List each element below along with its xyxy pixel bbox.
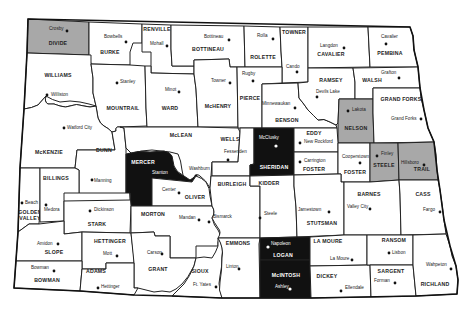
county-dickey[interactable]: DICKEY Ellendale	[310, 265, 371, 298]
county-seat-label: Lisbon	[392, 250, 406, 255]
county-seat-label: Crosby	[49, 26, 64, 31]
county-seat-dot	[398, 77, 401, 80]
county-seat-dot	[420, 118, 423, 121]
county-adams[interactable]: ADAMS Hettinger	[80, 263, 138, 295]
county-ransom[interactable]: RANSOM Lisbon	[367, 235, 413, 265]
county-label: STUTSMAN	[307, 220, 337, 226]
county-seat-label: Cooperstown	[342, 154, 370, 159]
county-label: RAMSEY	[319, 77, 343, 83]
county-williams[interactable]: WILLIAMS Williston	[24, 53, 96, 109]
county-seat-label: Bismarck	[213, 214, 233, 219]
county-seat-label: Minot	[165, 87, 177, 92]
county-seat-label: Watford City	[67, 125, 93, 130]
county-seat-dot	[376, 155, 379, 158]
county-ward[interactable]: WARD Minot	[145, 66, 198, 127]
county-seat-dot	[347, 110, 350, 113]
county-logan[interactable]: LOGAN Napoleon	[260, 237, 310, 260]
county-seat-label: Minnewaukan	[262, 101, 291, 106]
county-traill[interactable]: TRAIL Hillsboro	[398, 142, 438, 180]
county-seat-dot	[385, 43, 388, 46]
county-seat-label: Devils Lake	[316, 89, 340, 94]
county-label: GRAND FORKS	[381, 96, 422, 102]
county-golden-valley[interactable]: GOLDEN VALLEY Beach	[18, 168, 42, 232]
county-bowman[interactable]: BOWMAN Bowman	[14, 261, 82, 291]
county-seat-label: Wahpeton	[426, 262, 447, 267]
county-seat-label: Bowman	[31, 265, 49, 270]
county-label: GRANT	[148, 266, 168, 272]
county-label: BILLINGS	[43, 175, 69, 181]
county-label: BOWMAN	[34, 277, 60, 283]
county-seat-dot	[227, 159, 230, 162]
county-seat-label: Amidon	[37, 241, 53, 246]
county-emmons[interactable]: EMMONS Linton	[218, 238, 260, 298]
county-seat-dot	[423, 164, 426, 167]
county-seat-label: Mohall	[150, 41, 164, 46]
county-label: STEELE	[373, 162, 395, 168]
county-seat-dot	[274, 144, 277, 147]
county-seat-dot	[316, 96, 319, 99]
county-burke[interactable]: BURKE Bowbells	[89, 22, 142, 65]
county-seat-label: Cando	[286, 64, 300, 69]
county-towner[interactable]: TOWNER Cando	[280, 27, 308, 83]
county-seat-dot	[21, 202, 24, 205]
county-label: HETTINGER	[94, 238, 126, 244]
county-stark[interactable]: STARK Dickinson	[64, 193, 131, 234]
county-cavalier[interactable]: CAVALIER Langdon	[308, 27, 370, 68]
county-seat-label: Ashley	[275, 284, 289, 289]
county-seat-label: Forman	[374, 278, 390, 283]
county-seat-label: Rugby	[242, 71, 256, 76]
county-eddy[interactable]: EDDY New Rockford	[294, 128, 338, 152]
county-label: MORTON	[141, 211, 165, 217]
county-rolette[interactable]: ROLETTE Rolla	[244, 26, 282, 67]
county-seat-label: Steele	[264, 211, 277, 216]
county-label: ADAMS	[86, 268, 106, 274]
county-steele[interactable]: STEELE Finley	[370, 143, 399, 182]
county-pembina[interactable]: PEMBINA Cavalier	[368, 27, 418, 67]
county-label: SARGENT	[378, 268, 405, 274]
county-seat-dot	[208, 221, 211, 224]
county-seat-dot	[198, 219, 201, 222]
county-label: SHERIDAN	[260, 164, 289, 170]
county-sheridan[interactable]: SHERIDAN McClusky	[250, 128, 294, 176]
county-seat-dot	[63, 127, 66, 130]
county-label: BURLEIGH	[218, 181, 247, 187]
county-oliver[interactable]: OLIVER Center	[152, 176, 212, 206]
county-label: TRAIL	[414, 166, 431, 172]
county-label: LOGAN	[273, 252, 293, 258]
county-seat-dot	[116, 255, 119, 258]
county-mcintosh[interactable]: McINTOSH Ashley	[260, 260, 311, 298]
county-label: RANSOM	[382, 237, 406, 243]
county-nelson[interactable]: NELSON Lakota	[338, 99, 374, 143]
county-mchenry[interactable]: McHENRY Towner	[194, 59, 238, 127]
county-sargent[interactable]: SARGENT Forman	[370, 265, 416, 297]
county-seat-dot	[228, 39, 231, 42]
county-label: SLOPE	[45, 249, 64, 255]
county-seat-dot	[259, 217, 262, 220]
county-label: TOWNER	[282, 29, 306, 35]
county-seat-label: New Rockford	[304, 139, 333, 144]
county-label: KIDDER	[258, 180, 279, 186]
county-label: NELSON	[345, 125, 368, 131]
county-seat-label: Napoleon	[271, 241, 291, 246]
county-seat-dot	[272, 38, 275, 41]
county-label: BOTTINEAU	[192, 46, 224, 52]
county-seat-dot	[351, 259, 354, 262]
county-seat-label: Grafton	[381, 70, 397, 75]
county-seat-dot	[359, 162, 362, 165]
county-seat-dot	[45, 204, 48, 207]
county-label: OLIVER	[185, 194, 206, 200]
county-barnes[interactable]: BARNES Valley City	[344, 180, 401, 235]
county-seat-dot	[294, 107, 297, 110]
county-divide[interactable]: DIVIDE Crosby	[27, 19, 89, 55]
county-stutsman[interactable]: STUTSMAN Jamestown	[294, 174, 344, 237]
county-label: VALLEY	[19, 215, 41, 221]
county-label: McLEAN	[170, 132, 193, 138]
county-griggs[interactable]: FOSTER Cooperstown	[338, 143, 370, 182]
county-la-moure[interactable]: LA MOURE La Moure	[310, 235, 367, 266]
county-seat-label: Manning	[94, 178, 112, 183]
county-seat-label: Finley	[381, 151, 394, 156]
county-label: DICKEY	[317, 273, 338, 279]
county-foster[interactable]: FOSTER Carrington	[294, 152, 338, 175]
county-richland[interactable]: RICHLAND Wahpeton	[413, 234, 458, 296]
county-seat-label: Towner	[211, 78, 226, 83]
